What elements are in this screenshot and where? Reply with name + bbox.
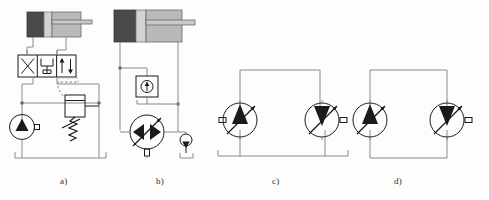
cylinder-barrel <box>52 12 81 37</box>
cylinder-rod <box>146 20 195 25</box>
cylinder-barrel <box>146 10 182 42</box>
cylinder-cap <box>114 10 136 42</box>
cylinder-piston <box>44 12 52 37</box>
hydraulic-schematic-svg: .ln { stroke:#8a8a8a; stroke-width:1; fi… <box>0 0 489 200</box>
junction-node-right <box>97 101 101 105</box>
cylinder-rod <box>52 20 92 24</box>
cylinder-cap <box>27 12 44 37</box>
cylinder-piston <box>136 10 146 42</box>
panel-label-b: b) <box>156 176 164 186</box>
junction-node-left <box>20 101 24 105</box>
junction-node-b1 <box>118 66 122 70</box>
panel-label-d: d) <box>394 176 402 186</box>
figure-canvas: .ln { stroke:#8a8a8a; stroke-width:1; fi… <box>0 0 489 200</box>
panel-label-a: a) <box>60 176 68 186</box>
panel-label-c: c) <box>272 176 280 186</box>
